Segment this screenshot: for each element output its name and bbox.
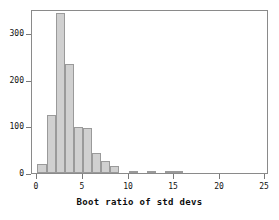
histogram-bar [92, 153, 101, 173]
x-axis-tick [36, 174, 37, 179]
y-axis-tick [26, 127, 31, 128]
x-axis-title: Boot ratio of std devs [0, 197, 279, 207]
x-axis-tick [219, 174, 220, 179]
x-axis-tick-label: 20 [207, 182, 231, 191]
histogram-bar [83, 128, 92, 173]
y-axis-tick-label: 200 [0, 77, 24, 85]
histogram-bar [110, 166, 119, 173]
histogram-bar [56, 13, 65, 173]
plot-frame [31, 10, 268, 174]
x-axis-tick-label: 0 [24, 182, 48, 191]
x-axis-tick [264, 174, 265, 179]
histogram-bar [74, 127, 83, 173]
y-axis-tick [26, 81, 31, 82]
x-axis-tick-label: 25 [252, 182, 276, 191]
x-axis-tick [82, 174, 83, 179]
x-axis-tick [128, 174, 129, 179]
histogram-figure: 0100200300 0510152025 Boot ratio of std … [0, 0, 279, 220]
histogram-bar [147, 171, 156, 173]
x-axis-tick-label: 10 [116, 182, 140, 191]
y-axis-tick [26, 34, 31, 35]
x-axis-tick-label: 15 [161, 182, 185, 191]
histogram-bar [165, 171, 183, 173]
histogram-bar [37, 164, 46, 173]
histogram-bar [47, 115, 56, 173]
x-axis-tick [173, 174, 174, 179]
histogram-bar [65, 64, 74, 173]
x-axis-tick-label: 5 [70, 182, 94, 191]
plot-area [32, 11, 267, 173]
y-axis-tick-label: 300 [0, 30, 24, 38]
y-axis-tick-label: 100 [0, 123, 24, 131]
y-axis-tick [26, 174, 31, 175]
histogram-bar [101, 161, 110, 173]
histogram-bar [129, 171, 138, 173]
y-axis-tick-label: 0 [0, 170, 24, 178]
